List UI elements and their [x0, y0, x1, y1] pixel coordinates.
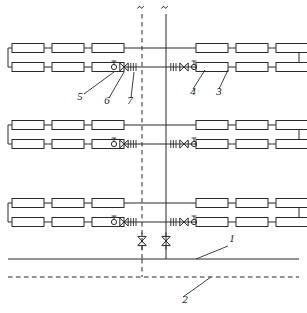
- leader-line-6: [109, 72, 124, 98]
- label-4: 4: [190, 85, 196, 97]
- radiator[interactable]: [52, 121, 84, 130]
- radiator[interactable]: [276, 218, 307, 227]
- radiator[interactable]: [236, 140, 268, 149]
- radiator[interactable]: [276, 121, 307, 130]
- radiator[interactable]: [276, 63, 307, 72]
- return-riser-break-mark: [138, 6, 144, 8]
- radiator[interactable]: [196, 199, 228, 208]
- label-5: 5: [77, 90, 83, 102]
- radiator[interactable]: [276, 44, 307, 53]
- radiator[interactable]: [92, 44, 124, 53]
- radiator[interactable]: [92, 63, 124, 72]
- radiator[interactable]: [196, 63, 228, 72]
- return-riser-gate-valve: [138, 236, 146, 245]
- leader-line-5: [84, 72, 114, 94]
- radiator[interactable]: [276, 140, 307, 149]
- radiator[interactable]: [92, 140, 124, 149]
- radiator[interactable]: [52, 63, 84, 72]
- radiator[interactable]: [92, 218, 124, 227]
- radiator[interactable]: [52, 199, 84, 208]
- radiator[interactable]: [52, 44, 84, 53]
- radiator[interactable]: [92, 199, 124, 208]
- radiator[interactable]: [12, 44, 44, 53]
- radiator[interactable]: [196, 121, 228, 130]
- radiator[interactable]: [196, 218, 228, 227]
- radiator[interactable]: [236, 218, 268, 227]
- piping-schematic: 1234567: [0, 0, 307, 313]
- radiator[interactable]: [12, 63, 44, 72]
- supply-riser-break-mark: [162, 6, 168, 8]
- leader-line-1: [196, 246, 228, 259]
- radiator[interactable]: [12, 218, 44, 227]
- radiator[interactable]: [236, 199, 268, 208]
- radiator[interactable]: [12, 140, 44, 149]
- label-3: 3: [215, 85, 222, 97]
- radiator[interactable]: [236, 63, 268, 72]
- radiator[interactable]: [236, 44, 268, 53]
- radiator[interactable]: [196, 44, 228, 53]
- label-2: 2: [182, 293, 188, 305]
- radiator[interactable]: [52, 218, 84, 227]
- radiator[interactable]: [52, 140, 84, 149]
- label-1: 1: [229, 232, 235, 244]
- radiator[interactable]: [236, 121, 268, 130]
- radiator[interactable]: [12, 121, 44, 130]
- radiator[interactable]: [196, 140, 228, 149]
- radiator[interactable]: [276, 199, 307, 208]
- radiator[interactable]: [12, 199, 44, 208]
- label-6: 6: [104, 94, 110, 106]
- radiator[interactable]: [92, 121, 124, 130]
- label-7: 7: [127, 94, 133, 106]
